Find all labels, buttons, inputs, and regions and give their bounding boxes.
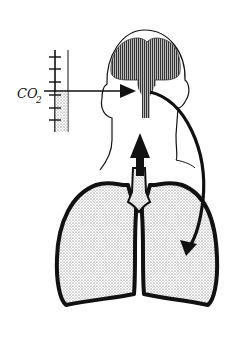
co2-label: CO (17, 86, 38, 101)
diagram-canvas: CO 2 (0, 0, 241, 341)
right-lung (142, 183, 217, 305)
left-lung (57, 183, 136, 305)
brain (111, 38, 180, 86)
co2-subscript: 2 (35, 95, 42, 105)
brainstem (138, 80, 155, 118)
